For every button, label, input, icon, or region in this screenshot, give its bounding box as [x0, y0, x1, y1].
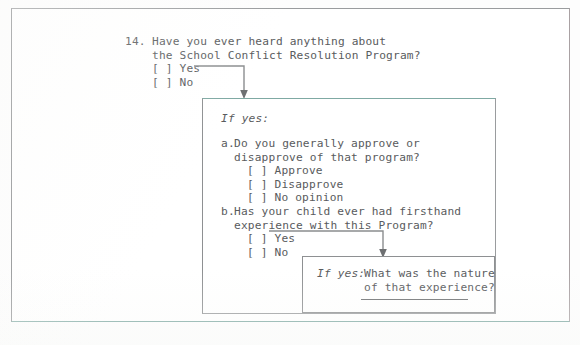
sub-question-b-label: b.	[221, 205, 235, 219]
box-b-if-yes-label: If yes:	[317, 267, 365, 281]
sub-question-a-label: a.	[221, 137, 235, 151]
box-a-if-yes-label: If yes:	[221, 112, 269, 126]
sub-question-a-options[interactable]: [ ] Approve [ ] Disapprove [ ] No opinio…	[247, 164, 343, 205]
scanned-page: 14. Have you ever heard anything about t…	[0, 0, 580, 345]
down-arrow-icon-to-box-b	[267, 226, 392, 260]
free-text-answer-line[interactable]	[361, 299, 468, 300]
question-number: 14.	[125, 35, 146, 49]
down-arrow-icon-to-box-a	[192, 61, 252, 101]
box-b-question-text: What was the nature of that experience?	[364, 267, 495, 294]
conditional-box-if-yes-nested: If yes: What was the nature of that expe…	[302, 256, 495, 313]
outer-document-frame: 14. Have you ever heard anything about t…	[11, 8, 570, 322]
question-text: Have you ever heard anything about the S…	[152, 35, 421, 62]
sub-question-a-text: Do you generally approve or disapprove o…	[234, 137, 420, 164]
